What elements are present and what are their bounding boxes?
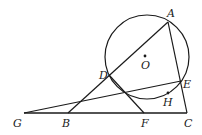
label-a: A <box>166 7 175 20</box>
point-o-dot <box>144 55 147 58</box>
label-e: E <box>182 78 191 91</box>
label-d: D <box>98 69 108 82</box>
label-o: O <box>141 59 150 72</box>
segment-ge <box>24 81 181 113</box>
label-h: H <box>162 96 173 109</box>
label-c: C <box>184 117 193 130</box>
label-b: B <box>61 117 70 130</box>
diagram-canvas: A O D E H G B F C <box>0 0 202 135</box>
label-g: G <box>13 117 22 130</box>
label-f: F <box>140 117 149 130</box>
segment-ba <box>68 22 168 113</box>
geometry-diagram: A O D E H G B F C <box>0 0 202 135</box>
point-h-dot <box>167 92 170 95</box>
circle-o <box>105 15 189 99</box>
